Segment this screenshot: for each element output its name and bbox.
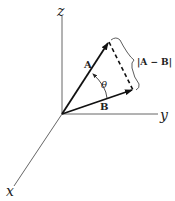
angle-label: θ — [101, 79, 107, 90]
brace-icon — [111, 38, 139, 90]
vector-diagram: z y x A B θ |A − B| — [0, 0, 175, 201]
axes — [14, 16, 158, 186]
difference-label: |A − B| — [137, 57, 172, 68]
vector-b — [62, 90, 132, 114]
z-axis-label: z — [56, 3, 65, 19]
x-axis — [14, 114, 62, 186]
difference-line — [109, 42, 133, 90]
x-axis-label: x — [6, 183, 14, 199]
vector-b-label: B — [100, 101, 108, 112]
vector-a-label: A — [83, 59, 92, 70]
y-axis-label: y — [159, 107, 169, 123]
